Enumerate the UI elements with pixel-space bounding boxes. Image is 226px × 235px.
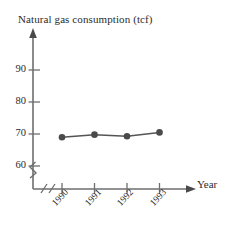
y-axis-break-icon bbox=[30, 162, 36, 178]
data-point-1990 bbox=[59, 134, 66, 141]
y-axis-arrow-icon bbox=[29, 28, 37, 38]
y-tick-label-80: 80 bbox=[6, 95, 26, 106]
data-line-series bbox=[62, 132, 160, 137]
data-point-1993 bbox=[156, 129, 163, 136]
y-tick-label-60: 60 bbox=[6, 159, 26, 170]
y-tick-label-90: 90 bbox=[6, 63, 26, 74]
data-point-1992 bbox=[124, 133, 131, 140]
x-axis-arrow-icon bbox=[186, 185, 196, 193]
x-axis-label: Year bbox=[197, 178, 217, 190]
data-point-1991 bbox=[91, 131, 98, 138]
chart-figure: Natural gas consumption (tcf) 90 80 70 6… bbox=[0, 0, 226, 235]
y-tick-label-70: 70 bbox=[6, 127, 26, 138]
chart-plot-area bbox=[0, 0, 226, 235]
